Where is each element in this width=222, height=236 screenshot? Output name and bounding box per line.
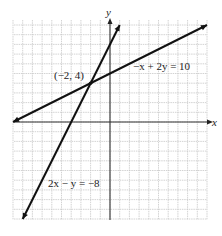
intersection-point xyxy=(89,81,93,85)
x-axis-label: x xyxy=(211,116,217,128)
y-axis-label: y xyxy=(105,6,111,18)
intersection-label: (−2, 4) xyxy=(54,69,84,82)
coordinate-plane: x y (−2, 4) −x + 2y = 10 2x − y = −8 xyxy=(0,0,222,236)
line2-equation-label: 2x − y = −8 xyxy=(48,177,100,189)
line1-equation-label: −x + 2y = 10 xyxy=(133,60,191,72)
